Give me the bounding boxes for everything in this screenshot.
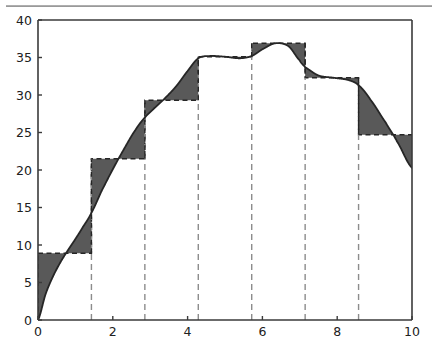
x-tick-label: 10 <box>404 324 420 339</box>
x-tick-label: 0 <box>34 324 42 339</box>
y-tick-label: 10 <box>16 238 32 253</box>
x-tick-label: 8 <box>333 324 341 339</box>
x-tick-label: 6 <box>258 324 266 339</box>
x-tick-label: 2 <box>109 324 117 339</box>
figure-canvas: 0510152025303540 0246810 <box>0 0 438 348</box>
x-tick-label: 4 <box>184 324 192 339</box>
y-tick-label: 40 <box>16 13 32 28</box>
chart-plot: 0510152025303540 0246810 <box>0 0 438 348</box>
y-tick-label: 30 <box>16 88 32 103</box>
y-tick-label: 25 <box>16 125 32 140</box>
y-tick-label: 0 <box>24 313 32 328</box>
y-tick-label: 20 <box>16 163 32 178</box>
y-tick-label: 15 <box>16 200 32 215</box>
y-tick-label: 35 <box>16 50 32 65</box>
y-tick-label: 5 <box>24 275 32 290</box>
